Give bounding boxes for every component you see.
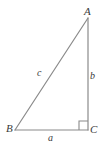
vertex-label-b: B xyxy=(6,123,13,134)
right-angle-square-icon xyxy=(79,121,88,130)
right-triangle-figure: A B C a b c xyxy=(0,0,100,146)
side-label-b: b xyxy=(90,71,95,81)
vertex-label-a: A xyxy=(84,6,91,17)
side-c-hypotenuse-line xyxy=(15,18,88,130)
triangle-drawing xyxy=(0,0,100,146)
vertex-label-c: C xyxy=(90,124,97,135)
side-label-a: a xyxy=(48,133,53,143)
side-label-c: c xyxy=(37,68,41,78)
